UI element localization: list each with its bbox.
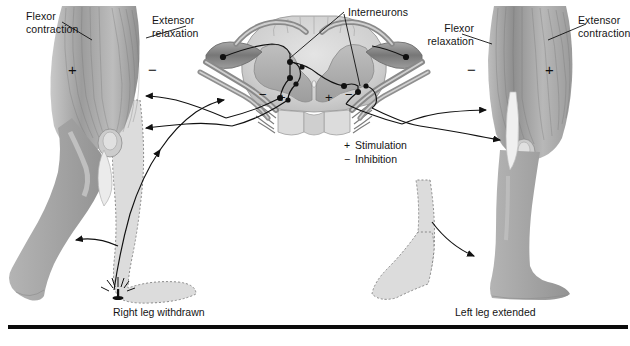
legend-inhibition-label: Inhibition xyxy=(355,153,397,165)
sign-cord-left-plus: + xyxy=(278,90,286,105)
sign-right-flexor-minus: − xyxy=(467,62,476,77)
legend-stimulation-label: Stimulation xyxy=(355,139,407,151)
right-lower-leg-foot xyxy=(490,150,570,300)
label-extensor-contraction: Extensor contraction xyxy=(578,14,630,39)
cord-ventral-left-column xyxy=(278,110,304,135)
sign-cord-right-minus: − xyxy=(345,87,353,102)
bottom-rule xyxy=(8,325,628,329)
sign-right-extensor-plus: + xyxy=(545,62,554,77)
sign-cord-left-minus: − xyxy=(259,87,267,102)
central-canal xyxy=(312,81,316,88)
legend-plus-symbol: + xyxy=(344,138,355,152)
legend-row-stimulation: +Stimulation xyxy=(344,138,407,152)
caption-right-leg-withdrawn: Right leg withdrawn xyxy=(113,306,205,318)
label-flexor-contraction: Flexor contraction xyxy=(26,10,78,35)
arrow-to-right-flexor xyxy=(402,110,486,124)
arrow-to-left-flexor xyxy=(146,96,226,118)
arrow-extension-motion xyxy=(432,222,474,256)
label-flexor-relaxation: Flexor relaxation xyxy=(420,22,474,47)
tack-shaft xyxy=(117,289,119,298)
legend: +Stimulation −Inhibition xyxy=(344,138,407,166)
sign-left-flexor-plus: + xyxy=(68,62,77,77)
ghost-outline-left xyxy=(112,100,196,303)
left-limb-group xyxy=(9,6,196,303)
spinal-cord-cross-section xyxy=(242,16,387,135)
label-extensor-relaxation: Extensor relaxation xyxy=(152,14,199,39)
left-lower-leg-foot xyxy=(9,118,105,301)
cord-ventral-right-column xyxy=(324,110,350,135)
legend-row-inhibition: −Inhibition xyxy=(344,152,407,166)
caption-left-leg-extended: Left leg extended xyxy=(455,306,536,318)
sign-cord-right-plus: + xyxy=(325,90,333,105)
ghost-outline-right-foot xyxy=(372,232,434,299)
arrow-withdrawal-motion xyxy=(76,239,118,246)
arrow-to-left-extensor xyxy=(146,123,232,128)
arrow-to-right-extensor xyxy=(420,126,500,140)
label-interneurons: Interneurons xyxy=(348,6,408,19)
sign-left-extensor-minus: − xyxy=(148,62,157,77)
legend-minus-symbol: − xyxy=(344,152,355,166)
